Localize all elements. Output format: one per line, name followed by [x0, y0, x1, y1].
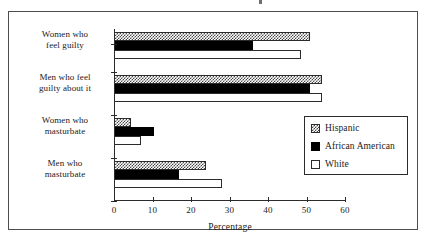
- x-axis-tick-60: [345, 197, 346, 202]
- category-label-line: Women who: [21, 115, 109, 126]
- y-axis-tick-1: [111, 44, 117, 45]
- bar-hispanic-group-4: [114, 161, 206, 170]
- category-label-women-masturbate: Women who masturbate: [21, 115, 109, 137]
- y-axis-tick-4: [111, 158, 117, 159]
- x-axis-tick-label-0: 0: [102, 205, 126, 215]
- category-label-line: feel guilty: [21, 40, 109, 51]
- category-label-men-feel-guilty: Men who feel guilty about it: [21, 72, 109, 94]
- category-label-line: Women who: [21, 29, 109, 40]
- x-axis-tick-label-40: 40: [256, 205, 280, 215]
- chart-frame: Women who feel guilty Men who feel guilt…: [8, 11, 418, 230]
- x-axis-tick-0: [114, 197, 115, 202]
- bar-white-group-3: [114, 136, 141, 145]
- bar-hispanic-group-2: [114, 75, 322, 84]
- x-axis-tick-40: [268, 197, 269, 202]
- x-axis-tick-label-10: 10: [141, 205, 165, 215]
- legend-label: African American: [325, 141, 395, 151]
- bar-hispanic-group-1: [114, 32, 310, 41]
- category-axis-labels: Women who feel guilty Men who feel guilt…: [19, 12, 109, 231]
- category-label-line: Men who: [21, 158, 109, 169]
- x-axis-tick-label-20: 20: [179, 205, 203, 215]
- legend-item-african-american[interactable]: African American: [311, 139, 395, 153]
- category-label-line: Men who feel: [21, 72, 109, 83]
- x-axis-tick-10: [153, 197, 154, 202]
- category-label-men-masturbate: Men who masturbate: [21, 158, 109, 180]
- legend-item-hispanic[interactable]: Hispanic: [311, 121, 360, 135]
- bar-white-group-4: [114, 179, 222, 188]
- plot-area: [114, 29, 345, 201]
- bar-african-american-group-3: [114, 127, 154, 136]
- bar-african-american-group-2: [114, 84, 310, 93]
- chart-legend: Hispanic African American White: [304, 116, 408, 175]
- y-axis-tick-3: [111, 115, 117, 116]
- x-axis-tick-50: [307, 197, 308, 202]
- cropped-title-remnant: [259, 0, 262, 4]
- legend-label: Hispanic: [325, 123, 360, 133]
- white-swatch-icon: [311, 160, 320, 169]
- category-label-line: masturbate: [21, 169, 109, 180]
- bar-hispanic-group-3: [114, 118, 131, 127]
- category-label-line: guilty about it: [21, 83, 109, 94]
- legend-label: White: [325, 159, 349, 169]
- chart-figure: Women who feel guilty Men who feel guilt…: [0, 0, 428, 244]
- bar-african-american-group-4: [114, 170, 179, 179]
- bar-white-group-1: [114, 50, 301, 59]
- bar-african-american-group-1: [114, 41, 253, 50]
- solid-black-swatch-icon: [311, 142, 320, 151]
- x-axis-tick-label-50: 50: [295, 205, 319, 215]
- x-axis-tick-20: [191, 197, 192, 202]
- x-axis-tick-30: [230, 197, 231, 202]
- y-axis-tick-2: [111, 72, 117, 73]
- category-label-women-feel-guilty: Women who feel guilty: [21, 29, 109, 51]
- checkered-swatch-icon: [311, 124, 320, 133]
- category-label-line: masturbate: [21, 126, 109, 137]
- x-axis-title: Percentage: [114, 222, 346, 232]
- x-axis-tick-label-30: 30: [218, 205, 242, 215]
- x-axis-tick-label-60: 60: [333, 205, 357, 215]
- bar-white-group-2: [114, 93, 322, 102]
- legend-item-white[interactable]: White: [311, 157, 349, 171]
